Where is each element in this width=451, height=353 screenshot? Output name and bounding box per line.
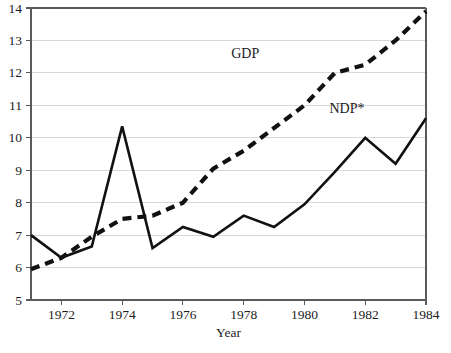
x-tick-label-1978: 1978 — [230, 307, 257, 322]
y-tick-label-6: 6 — [15, 260, 22, 275]
y-tick-label-11: 11 — [9, 98, 22, 113]
y-tick-label-7: 7 — [15, 228, 22, 243]
chart-page: 567891011121314 197219741976197819801982… — [0, 0, 451, 353]
y-tick-label-10: 10 — [9, 130, 23, 145]
y-tick-label-14: 14 — [9, 1, 23, 16]
x-tick-label-1984: 1984 — [413, 307, 440, 322]
series-label-ndp: NDP* — [329, 101, 364, 116]
x-tick-label-1972: 1972 — [48, 307, 75, 322]
y-tick-label-12: 12 — [9, 65, 23, 80]
x-tick-label-1976: 1976 — [169, 307, 196, 322]
y-tick-label-5: 5 — [15, 293, 22, 308]
line-chart: 567891011121314 197219741976197819801982… — [0, 0, 451, 353]
y-tick-label-13: 13 — [9, 33, 23, 48]
y-tick-label-8: 8 — [15, 195, 22, 210]
x-axis-title: Year — [216, 325, 241, 340]
x-tick-label-1974: 1974 — [109, 307, 136, 322]
x-tick-label-1980: 1980 — [291, 307, 318, 322]
x-tick-label-1982: 1982 — [352, 307, 379, 322]
y-tick-label-9: 9 — [15, 163, 22, 178]
series-label-gdp: GDP — [231, 46, 259, 61]
